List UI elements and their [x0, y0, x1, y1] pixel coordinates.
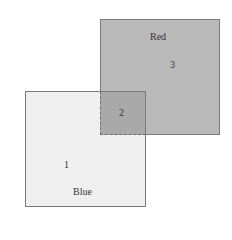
region-1-number: 1 [64, 160, 69, 170]
region-3-number: 3 [170, 60, 175, 70]
red-label: Red [150, 32, 166, 42]
region-2-number: 2 [119, 108, 124, 118]
blue-label: Blue [73, 187, 92, 197]
